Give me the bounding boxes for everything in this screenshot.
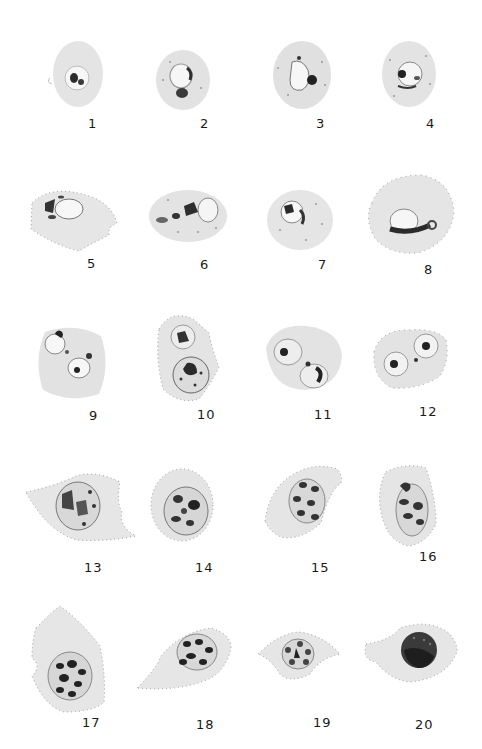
figure-number: 9 <box>89 409 98 422</box>
cell-drawing-2 <box>153 48 213 113</box>
cell-drawing-14 <box>150 467 216 543</box>
figure-number: 11 <box>314 408 333 421</box>
cell-drawing-4 <box>380 40 440 108</box>
figure-number: 3 <box>316 117 325 130</box>
cell-drawing-16 <box>380 462 440 548</box>
figure-number: 6 <box>200 258 209 271</box>
figure-number: 5 <box>87 257 96 270</box>
cell-drawing-15 <box>263 463 343 539</box>
cell-drawing-12 <box>370 326 448 392</box>
cell-drawing-13 <box>24 470 124 542</box>
figure-number: 16 <box>419 550 438 563</box>
cell-drawing-7 <box>266 190 334 252</box>
figure-number: 15 <box>311 561 330 574</box>
figure-number: 7 <box>318 258 327 271</box>
cell-drawing-6 <box>148 188 230 243</box>
figure-number: 2 <box>200 117 209 130</box>
cell-drawing-10 <box>155 311 227 403</box>
figure-number: 17 <box>82 716 101 729</box>
cell-drawing-18 <box>135 622 233 698</box>
cell-drawing-8 <box>362 173 457 258</box>
figure-plate: 1 2 3 4 <box>0 0 482 749</box>
figure-number: 13 <box>84 561 103 574</box>
cell-drawing-3 <box>270 40 335 110</box>
cell-drawing-17 <box>30 606 108 712</box>
cell-drawing-1 <box>48 38 108 113</box>
figure-number: 8 <box>424 263 433 276</box>
cell-drawing-20 <box>364 622 459 688</box>
cell-drawing-9 <box>37 322 107 400</box>
cell-drawing-19 <box>256 630 342 692</box>
figure-number: 10 <box>197 408 216 421</box>
figure-number: 18 <box>196 718 215 731</box>
figure-number: 4 <box>426 117 435 130</box>
figure-number: 1 <box>88 117 97 130</box>
cell-drawing-5 <box>27 185 122 255</box>
figure-number: 14 <box>195 561 214 574</box>
figure-number: 20 <box>415 718 434 731</box>
figure-number: 12 <box>419 405 438 418</box>
cell-drawing-11 <box>262 322 342 392</box>
figure-number: 19 <box>313 716 332 729</box>
